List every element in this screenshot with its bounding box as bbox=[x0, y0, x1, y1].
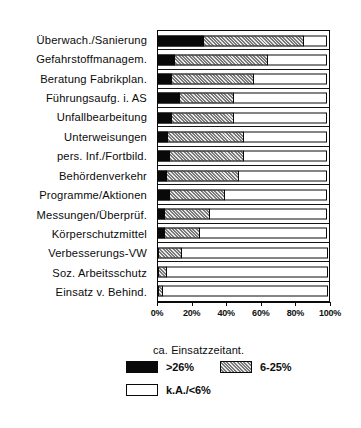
legend-row-secondary: k.A./<6% bbox=[126, 384, 211, 396]
stacked-bar bbox=[158, 286, 329, 297]
stacked-bar bbox=[158, 74, 329, 85]
bar-row bbox=[158, 50, 329, 69]
plot-area bbox=[157, 30, 330, 302]
bar-segment-mid bbox=[203, 35, 304, 46]
bar-segment-low bbox=[253, 74, 327, 85]
category-label: Beratung Fabrikplan. bbox=[0, 69, 152, 88]
x-axis-tick bbox=[226, 302, 227, 306]
bar-segment-low bbox=[166, 267, 328, 278]
bar-row bbox=[158, 127, 329, 146]
legend-item-low: k.A./<6% bbox=[126, 384, 211, 396]
stacked-bar bbox=[158, 35, 329, 46]
stacked-bar bbox=[158, 170, 329, 181]
stacked-bar bbox=[158, 189, 329, 200]
category-label: Unfallbearbeitung bbox=[0, 108, 152, 127]
chart-legend: ca. Einsatzzeitant. >26% 6-25% k.A./<6% bbox=[126, 344, 361, 424]
category-label: Gefahrstoffmanagem. bbox=[0, 49, 152, 68]
bar-segment-low bbox=[267, 54, 327, 65]
bar-segment-mid bbox=[171, 74, 255, 85]
category-label: Soz. Arbeitsschutz bbox=[0, 263, 152, 282]
bar-row bbox=[158, 282, 329, 301]
bar-segment-mid bbox=[179, 93, 234, 104]
legend-swatch-mid-icon bbox=[220, 361, 252, 373]
bar-segment-high bbox=[158, 93, 180, 104]
category-label: Verbesserungs-VW bbox=[0, 244, 152, 263]
bar-segment-low bbox=[303, 35, 327, 46]
bar-row bbox=[158, 108, 329, 127]
x-tick-label: 80% bbox=[287, 308, 304, 318]
bar-segment-low bbox=[243, 132, 327, 143]
bar-segment-low bbox=[209, 209, 327, 220]
category-label: pers. Inf./Fortbild. bbox=[0, 147, 152, 166]
category-axis-labels: Überwach./SanierungGefahrstoffmanagem.Be… bbox=[0, 30, 152, 302]
bar-segment-low bbox=[162, 286, 328, 297]
legend-item-high: >26% bbox=[126, 361, 194, 373]
stacked-bar bbox=[158, 112, 329, 123]
legend-label-mid: 6-25% bbox=[260, 361, 291, 373]
bar-segment-low bbox=[224, 189, 327, 200]
x-tick-label: 60% bbox=[252, 308, 269, 318]
category-label: Programme/Aktionen bbox=[0, 185, 152, 204]
bar-row bbox=[158, 243, 329, 262]
bar-row bbox=[158, 185, 329, 204]
legend-swatch-low-icon bbox=[126, 384, 158, 396]
bar-segment-mid bbox=[158, 247, 182, 258]
stacked-bar bbox=[158, 247, 329, 258]
bar-segment-mid bbox=[164, 228, 200, 239]
x-axis-tick-labels: 0%20%40%60%80%100% bbox=[140, 308, 350, 324]
bar-row bbox=[158, 262, 329, 281]
stacked-bar bbox=[158, 228, 329, 239]
x-axis-tick bbox=[192, 302, 193, 306]
bar-segment-mid bbox=[169, 189, 225, 200]
stacked-bar bbox=[158, 209, 329, 220]
category-label: Führungsaufg. i. AS bbox=[0, 88, 152, 107]
x-axis-line bbox=[157, 302, 330, 303]
stacked-bar bbox=[158, 93, 329, 104]
stacked-bar bbox=[158, 151, 329, 162]
category-label: Überwach./Sanierung bbox=[0, 30, 152, 49]
bar-row bbox=[158, 70, 329, 89]
bar-segment-high bbox=[158, 54, 175, 65]
stacked-bar bbox=[158, 267, 329, 278]
category-label: Einsatz v. Behind. bbox=[0, 282, 152, 301]
bar-rows bbox=[158, 31, 329, 301]
bar-row bbox=[158, 31, 329, 50]
bar-segment-mid bbox=[171, 112, 234, 123]
legend-swatch-high-icon bbox=[126, 361, 158, 373]
bar-segment-low bbox=[181, 247, 328, 258]
bar-segment-low bbox=[233, 93, 327, 104]
bar-row bbox=[158, 224, 329, 243]
legend-label-low: k.A./<6% bbox=[166, 384, 211, 396]
x-axis-tick bbox=[261, 302, 262, 306]
bar-segment-mid bbox=[166, 170, 240, 181]
x-tick-label: 40% bbox=[217, 308, 234, 318]
bar-segment-low bbox=[199, 228, 327, 239]
category-label: Körperschutzmittel bbox=[0, 224, 152, 243]
stacked-bar bbox=[158, 54, 329, 65]
x-tick-label: 20% bbox=[183, 308, 200, 318]
x-tick-label: 100% bbox=[319, 308, 341, 318]
bar-segment-mid bbox=[164, 209, 210, 220]
category-label: Behördenverkehr bbox=[0, 166, 152, 185]
x-axis-tick bbox=[157, 302, 158, 306]
stacked-bar-chart: Überwach./SanierungGefahrstoffmanagem.Be… bbox=[0, 0, 361, 428]
bar-segment-low bbox=[233, 112, 327, 123]
category-label: Messungen/Überprüf. bbox=[0, 205, 152, 224]
legend-label-high: >26% bbox=[166, 361, 194, 373]
bar-segment-high bbox=[158, 35, 204, 46]
category-label: Unterweisungen bbox=[0, 127, 152, 146]
bar-segment-high bbox=[158, 112, 172, 123]
x-tick-label: 0% bbox=[151, 308, 164, 318]
legend-title: ca. Einsatzzeitant. bbox=[153, 344, 244, 356]
legend-item-mid: 6-25% bbox=[220, 361, 291, 373]
legend-row-primary: >26% 6-25% bbox=[126, 361, 291, 373]
bar-row bbox=[158, 205, 329, 224]
bar-segment-high bbox=[158, 74, 172, 85]
bar-row bbox=[158, 166, 329, 185]
bar-segment-mid bbox=[167, 132, 244, 143]
x-axis-tick bbox=[295, 302, 296, 306]
bar-row bbox=[158, 147, 329, 166]
bar-segment-low bbox=[238, 170, 327, 181]
x-axis-tick bbox=[330, 302, 331, 306]
bar-row bbox=[158, 89, 329, 108]
